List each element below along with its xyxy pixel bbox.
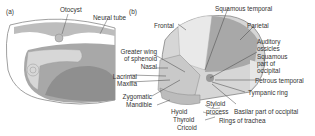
label-squamous-occ-2: part of — [257, 60, 275, 67]
label-auditory-2: ossicles — [257, 45, 280, 52]
panel-b-tag: (b) — [129, 8, 137, 15]
label-tympanic-ring: Tympanic ring — [248, 89, 288, 96]
label-nasal: Nasal — [141, 63, 157, 70]
label-cricoid: Cricoid — [177, 124, 197, 131]
label-hyoid: Hyoid — [171, 108, 187, 115]
label-basilar: Basilar part of occipital — [234, 108, 298, 115]
label-frontal: Frontal — [154, 22, 174, 29]
label-petrous-temporal: Petrous temporal — [255, 77, 304, 84]
label-lacrimal: Lacrimal — [113, 73, 137, 80]
label-squamous-occ-1: Squamous — [257, 53, 288, 60]
label-squamous-temporal: Squamous temporal — [215, 5, 272, 12]
label-rings-trachea: Rings of trachea — [219, 117, 266, 124]
label-styloid-1: Styloid — [206, 100, 225, 107]
label-otocyst: Otocyst — [60, 6, 82, 13]
label-greater-wing-1: Greater wing — [120, 48, 157, 55]
label-thyroid: Thyroid — [173, 116, 194, 123]
label-squamous-occ-3: occipital — [257, 67, 280, 74]
label-maxilla: Maxilla — [117, 80, 137, 87]
label-styloid-2: process — [206, 108, 228, 115]
embryo-illustration — [6, 14, 115, 104]
anatomy-figure: (a) Otocyst Neural tube (b) Frontal Squa… — [0, 0, 315, 136]
label-greater-wing-2: of sphenoid — [124, 55, 157, 62]
panel-a-tag: (a) — [6, 8, 14, 15]
label-neural-tube: Neural tube — [93, 14, 126, 21]
label-parietal: Parietal — [247, 22, 269, 29]
label-auditory-1: Auditory — [257, 38, 280, 45]
label-mandible: Mandible — [126, 101, 152, 108]
label-zygomatic: Zygomatic — [123, 93, 152, 100]
